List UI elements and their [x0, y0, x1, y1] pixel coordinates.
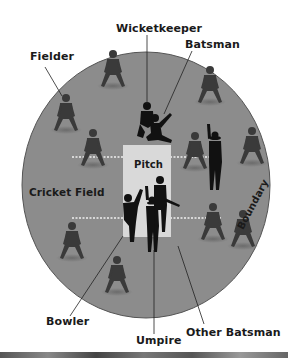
label-other-batsman: Other Batsman [186, 326, 281, 339]
label-cricket-field: Cricket Field [29, 186, 105, 198]
label-fielder: Fielder [30, 50, 74, 63]
label-pitch: Pitch [134, 159, 163, 170]
label-wicketkeeper: Wicketkeeper [116, 22, 202, 35]
bottom-strip [0, 352, 288, 358]
label-umpire: Umpire [136, 334, 182, 347]
label-batsman: Batsman [185, 38, 240, 51]
label-bowler: Bowler [46, 315, 89, 328]
